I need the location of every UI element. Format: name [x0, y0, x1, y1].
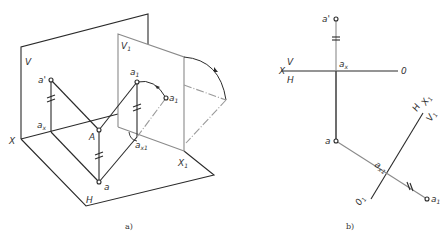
caption-b: b) [346, 222, 354, 231]
figure-b-labels: a' X V H 0 ax a ax1 H V1 X1 01 a1 b) [278, 14, 440, 231]
label-ax: ax [37, 120, 47, 131]
label-b-v: V [287, 57, 294, 67]
label-b-a-prime: a' [322, 14, 330, 24]
label-a1-prime: a1 [130, 67, 139, 78]
x-axis [21, 114, 118, 139]
label-a: a [104, 182, 110, 192]
label-b-ax: ax [339, 59, 349, 70]
label-b-x: X [278, 66, 286, 76]
label-b-a1-prime: a1 [431, 194, 440, 205]
projection-diagram: V V1 X X1 H A a' a1 a1 ax ax1 a a) a' X … [0, 0, 447, 241]
label-b-a: a [325, 136, 331, 146]
label-a1-prime-rotated: a1 [169, 93, 178, 104]
label-ax1: ax1 [135, 140, 148, 151]
label-h: H [86, 195, 93, 205]
label-v: V [25, 57, 32, 67]
label-b-o1: 01 [353, 194, 367, 208]
label-a-prime: a' [38, 75, 46, 85]
caption-a: a) [125, 222, 133, 231]
label-x: X [8, 136, 16, 146]
label-b-o: 0 [401, 66, 407, 76]
label-v1: V1 [121, 41, 131, 52]
label-b-h: H [287, 75, 294, 85]
figure-a-labels: V V1 X X1 H A a' a1 a1 ax ax1 a a) [8, 41, 188, 231]
label-A: A [88, 132, 95, 142]
h-plane [21, 139, 214, 206]
label-x1: X1 [177, 158, 188, 169]
x1-axis-b [371, 113, 423, 199]
figure-b [281, 17, 429, 201]
label-b-v1: V1 [424, 109, 439, 123]
label-b-x1: X1 [419, 93, 434, 108]
